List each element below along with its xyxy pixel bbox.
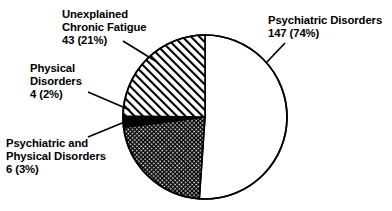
slice-label-text-line1: Psychiatric Disorders [268,14,382,27]
slice-label-physical-disorders: Physical Disorders 4 (2%) [30,62,82,102]
slice-label-psychiatric-disorders: Psychiatric Disorders 147 (74%) [268,14,382,40]
pie-chart-figure: Unexplained Chronic Fatigue 43 (21%) Psy… [0,0,392,211]
slice-label-psychiatric-and-physical-disorders: Psychiatric and Physical Disorders 6 (3%… [6,137,106,177]
slice-label-text-line1: Psychiatric and [6,137,106,150]
slice-label-text-line1: Physical [30,62,82,75]
slice-label-text-line2: Disorders [30,75,82,88]
pie-slice-psychiatric-disorders [199,35,287,199]
slice-label-unexplained-chronic-fatigue: Unexplained Chronic Fatigue 43 (21%) [62,8,147,48]
slice-label-value-unexplained-chronic-fatigue: 43 (21%) [62,34,147,47]
slice-label-value-psychiatric-disorders: 147 (74%) [268,27,382,40]
leader-line-psychiatric-and-physical-disorders [88,121,127,137]
slice-label-text-line2: Chronic Fatigue [62,21,147,34]
slice-label-value-physical-disorders: 4 (2%) [30,88,82,101]
slice-label-text-line1: Unexplained [62,8,147,21]
leader-line-psychiatric-disorders [266,43,285,63]
slice-label-text-line2: Physical Disorders [6,150,106,163]
pie-slice-psychiatric-and-physical-disorders [124,117,205,199]
slice-label-value-psychiatric-and-physical-disorders: 6 (3%) [6,163,106,176]
leader-line-physical-disorders [88,92,130,110]
